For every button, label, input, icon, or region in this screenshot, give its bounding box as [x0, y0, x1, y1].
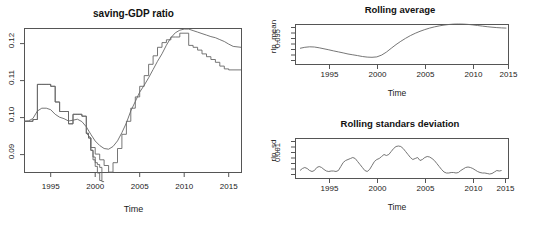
x-tick-label-rolling-average-3: 2010: [458, 70, 490, 79]
plot-frame-rolling-average: [296, 25, 509, 65]
x-tick-label-rolling-average-0: 1995: [314, 70, 346, 79]
x-axis-label-rolling-average: Time: [287, 88, 507, 98]
y-ticks-main: [20, 44, 25, 155]
x-tick-label-main-2: 2005: [124, 182, 156, 191]
x-ticks-rolling-sd: [330, 179, 506, 184]
series-smoothed-trend: [24, 29, 241, 149]
plot-frame-rolling-sd: [296, 139, 509, 179]
x-tick-label-main-4: 2015: [213, 182, 245, 191]
x-tick-label-main-0: 1995: [35, 182, 67, 191]
y-tick-label-rolling-sd-0: 0.001: [273, 138, 282, 168]
x-ticks-main: [51, 173, 229, 178]
x-ticks-rolling-average: [330, 65, 509, 70]
panel-title-rolling-average: Rolling average: [267, 4, 533, 15]
series-rlp-sd: [300, 146, 502, 174]
y-tick-label-main-2: 0.11: [7, 66, 16, 90]
series-rlp-mean: [300, 24, 506, 57]
y-ticks-rolling-average: [291, 28, 296, 61]
y-tick-label-rolling-average-0: 0.095: [273, 24, 282, 54]
x-tick-label-rolling-sd-2: 2005: [410, 184, 442, 193]
y-ticks-rolling-sd: [291, 142, 296, 175]
panel-saving-gdp-ratio: saving-GDP ratio 0.09 0.10: [0, 0, 267, 227]
x-tick-label-rolling-average-1: 2000: [362, 70, 394, 79]
x-tick-label-rolling-average-2: 2005: [410, 70, 442, 79]
x-tick-label-rolling-sd-3: 2010: [458, 184, 490, 193]
x-tick-label-rolling-sd-1: 2000: [362, 184, 394, 193]
x-tick-label-rolling-sd-4: 2015: [490, 184, 522, 193]
x-tick-label-rolling-sd-0: 1995: [314, 184, 346, 193]
panel-title-rolling-sd: Rolling standars deviation: [267, 118, 533, 129]
series-observed-step: [24, 84, 102, 180]
figure-canvas: saving-GDP ratio 0.09 0.10: [0, 0, 533, 227]
x-tick-label-rolling-average-4: 2015: [493, 70, 525, 79]
y-tick-label-main-0: 0.09: [7, 140, 16, 164]
y-tick-label-main-3: 0.12: [7, 29, 16, 53]
x-axis-label-main: Time: [0, 204, 267, 214]
series-observed-step-main: [24, 33, 241, 172]
panel-rolling-average: Rolling average rlp_mean 0.095: [267, 0, 533, 113]
x-tick-label-main-1: 2000: [79, 182, 111, 191]
panel-rolling-sd: Rolling standars deviation rlp_sd: [267, 113, 533, 227]
x-axis-label-rolling-sd: Time: [287, 202, 507, 212]
x-tick-label-main-3: 2010: [168, 182, 200, 191]
panel-title-main: saving-GDP ratio: [0, 8, 267, 19]
plot-frame-main: [25, 29, 242, 173]
plot-area-main: [24, 28, 242, 180]
y-tick-label-main-1: 0.10: [7, 103, 16, 127]
